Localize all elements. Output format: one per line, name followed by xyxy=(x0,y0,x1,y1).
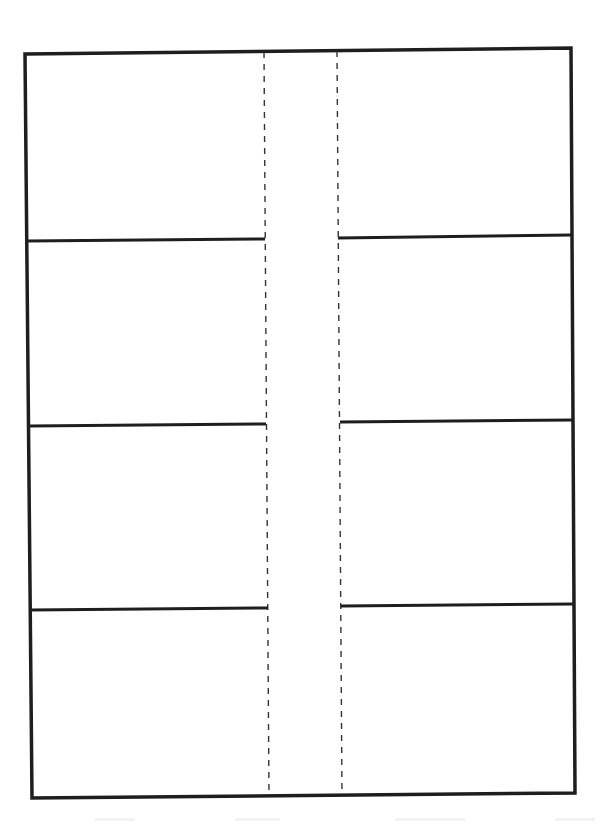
left-divider-2 xyxy=(30,424,266,426)
panel-6 xyxy=(341,423,571,603)
panel-8 xyxy=(341,607,571,791)
right-divider-2 xyxy=(340,420,573,422)
center-gutter xyxy=(264,51,342,796)
right-divider-3 xyxy=(341,604,574,606)
panel-1 xyxy=(29,56,264,238)
panel-4 xyxy=(341,238,571,419)
left-divider-1 xyxy=(27,239,265,241)
left-divider-3 xyxy=(31,608,268,610)
panel-5 xyxy=(29,427,264,607)
panel-7 xyxy=(29,611,264,795)
panel-3 xyxy=(29,242,264,423)
panel-2 xyxy=(341,51,571,234)
scan-bleed-through xyxy=(95,818,595,821)
